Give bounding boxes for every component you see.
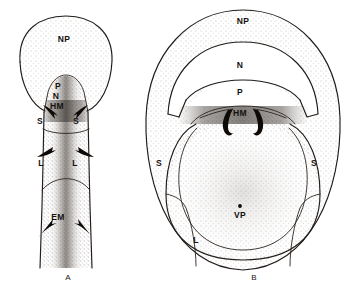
label-s-left-panel-b: S (156, 158, 162, 168)
label-np-panel-b: NP (237, 16, 249, 26)
label-hm-panel-a: HM (50, 101, 64, 111)
label-vp-panel-b: VP (234, 210, 246, 220)
panel-b-vp-dot (238, 204, 242, 208)
panel-a-hm-band (40, 100, 92, 122)
label-s-right-panel-b: S (311, 158, 317, 168)
label-em-panel-a: EM (51, 212, 64, 222)
label-s-left-panel-a: S (37, 116, 43, 126)
panel-a: NP P N HM S S L L EM A (20, 16, 112, 282)
anatomical-figure: NP P N HM S S L L EM A (0, 0, 356, 293)
label-n-panel-b: N (237, 60, 243, 70)
label-np-panel-a: NP (58, 34, 70, 44)
label-s-right-panel-a: S (73, 116, 79, 126)
label-n-panel-a: N (53, 91, 59, 101)
figure-canvas: NP P N HM S S L L EM A (0, 0, 356, 293)
label-hm-panel-b: HM (233, 108, 247, 118)
label-l-panel-b: L (193, 235, 199, 245)
label-l-right-panel-a: L (72, 158, 78, 168)
panel-b: NP N P HM S S VP L B (146, 10, 340, 282)
label-p-panel-a: P (55, 81, 61, 91)
panel-a-caption: A (65, 273, 71, 282)
label-p-panel-b: P (237, 87, 243, 97)
panel-b-caption: B (251, 273, 257, 282)
label-l-left-panel-a: L (38, 158, 44, 168)
